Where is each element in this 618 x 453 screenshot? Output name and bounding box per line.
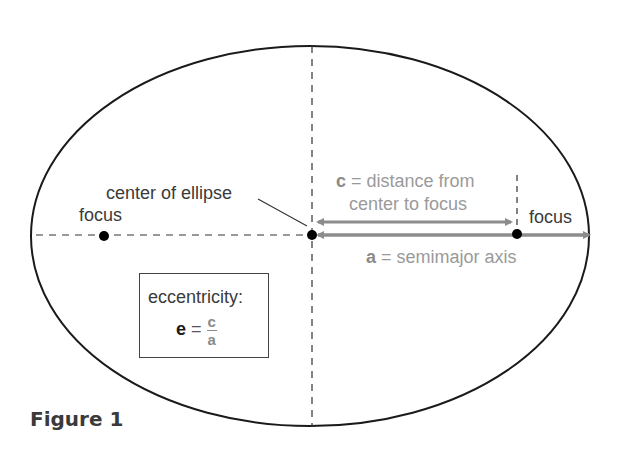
c-variable: c <box>336 171 346 191</box>
c-over-a-fraction: ca <box>207 314 217 347</box>
c-desc-line1: = distance from <box>346 171 475 191</box>
focus-left-dot <box>99 231 109 241</box>
figure-caption: Figure 1 <box>30 407 123 431</box>
ellipse-diagram <box>0 0 618 453</box>
a-variable: a <box>366 247 376 267</box>
focus-right-label: focus <box>529 208 572 226</box>
c-definition-line1: c = distance from <box>336 172 475 190</box>
center-pointer-line <box>258 199 307 226</box>
fraction-denominator: a <box>207 331 217 347</box>
fraction-numerator: c <box>207 314 217 331</box>
c-definition-line2: center to focus <box>349 195 467 213</box>
a-definition: a = semimajor axis <box>366 248 517 266</box>
focus-right-dot <box>512 229 522 239</box>
focus-left-label: focus <box>79 206 122 224</box>
eccentricity-formula: e = ca <box>176 314 217 347</box>
eccentricity-box: eccentricity: e = ca <box>139 273 269 358</box>
equals-sign: = <box>186 319 207 339</box>
center-of-ellipse-label: center of ellipse <box>106 184 232 202</box>
center-dot <box>307 230 317 240</box>
e-variable: e <box>176 319 186 339</box>
a-desc: = semimajor axis <box>376 247 517 267</box>
eccentricity-heading: eccentricity: <box>148 288 243 306</box>
